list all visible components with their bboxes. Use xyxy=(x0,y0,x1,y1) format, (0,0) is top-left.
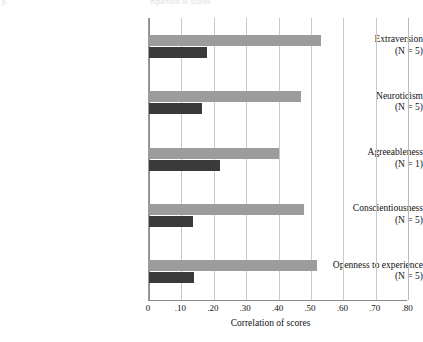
x-axis-baseline xyxy=(148,300,407,301)
bar-light-gray-bar xyxy=(149,35,321,46)
x-tick-label-p20: .20 xyxy=(198,303,228,313)
bar-dark-gray-bar xyxy=(149,47,207,58)
gridline-p80 xyxy=(408,18,409,300)
bar-group xyxy=(149,148,407,171)
bar-dark-gray-bar xyxy=(149,103,202,114)
x-tick-label-p70: .70 xyxy=(360,303,390,313)
x-tick-label-p10: .10 xyxy=(165,303,195,313)
bar-dark-gray-bar xyxy=(149,272,194,283)
bar-group xyxy=(149,204,407,227)
x-tick-label-0: 0 xyxy=(133,303,163,313)
x-axis-title-text: Correlation of scores xyxy=(113,318,311,328)
bar-light-gray-bar xyxy=(149,260,317,271)
bar-light-gray-bar xyxy=(149,91,301,102)
bar-dark-gray-bar xyxy=(149,160,220,171)
clipped-header-left: p. xyxy=(2,0,8,6)
bar-light-gray-bar xyxy=(149,148,279,159)
x-tick-label-p50: .50 xyxy=(295,303,325,313)
bar-chart-figure: p. mparison of scores Extraversion (N = … xyxy=(0,0,423,342)
bar-dark-gray-bar xyxy=(149,216,193,227)
x-tick-label-p60: .60 xyxy=(327,303,357,313)
bar-group xyxy=(149,260,407,283)
x-tick-label-p80: .80 xyxy=(392,303,422,313)
plot-area xyxy=(148,18,407,300)
bar-group xyxy=(149,35,407,58)
clipped-header-center: mparison of scores xyxy=(150,0,210,6)
bar-group xyxy=(149,91,407,114)
x-tick-label-p40: .40 xyxy=(263,303,293,313)
x-tick-label-p30: .30 xyxy=(230,303,260,313)
clipped-header-text: p. mparison of scores xyxy=(0,0,423,7)
x-axis-title: Correlation of scores xyxy=(0,318,423,328)
bar-light-gray-bar xyxy=(149,204,304,215)
